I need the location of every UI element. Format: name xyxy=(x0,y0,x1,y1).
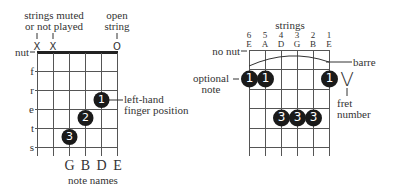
no-nut-label: no nut xyxy=(190,46,240,57)
finger-number-string-6: 1 xyxy=(243,73,256,84)
barre-label: barre xyxy=(353,57,376,68)
finger-number-string-2: 3 xyxy=(307,112,320,123)
fret-caption-line2: number xyxy=(337,109,371,120)
finger-number-string-3: 3 xyxy=(291,112,304,123)
barre-arc xyxy=(249,56,329,66)
finger-number-string-4: 3 xyxy=(275,112,288,123)
fret-number-caption: fret number xyxy=(337,98,371,120)
optional-note-line2: note xyxy=(188,84,234,95)
finger-number-string-1: 1 xyxy=(323,73,336,84)
fret-number-roman: V xyxy=(340,69,354,89)
optional-note-label: optional note xyxy=(188,73,234,95)
finger-number-string-5: 1 xyxy=(259,73,272,84)
